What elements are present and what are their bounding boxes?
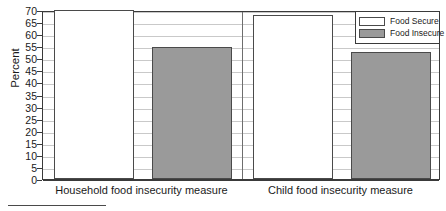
y-axis-tick-label: 70 (7, 6, 37, 17)
y-axis-tick-label: 5 (7, 163, 37, 174)
legend-item-food-insecure: Food Insecure (359, 28, 436, 39)
bar-food-secure (54, 10, 134, 179)
category-separator (242, 12, 243, 179)
legend-label-food-insecure: Food Insecure (390, 29, 444, 38)
y-axis-tick-label: 0 (7, 175, 37, 186)
y-axis-tick-label: 60 (7, 30, 37, 41)
y-axis-tick-label: 40 (7, 78, 37, 89)
y-axis-tick-label: 35 (7, 91, 37, 102)
footnote-rule (8, 205, 106, 206)
gridline (43, 180, 439, 181)
chart-figure: Percent 7065605550454035302520151050 Hou… (0, 0, 446, 211)
y-axis-tick (37, 180, 42, 181)
legend-label-food-secure: Food Secure (390, 17, 439, 26)
x-axis-tick-label: Child food insecurity measure (241, 184, 440, 196)
y-axis-tick-label: 50 (7, 54, 37, 65)
y-axis-tick-label: 10 (7, 151, 37, 162)
y-axis-tick-label: 25 (7, 115, 37, 126)
y-axis-tick-label: 55 (7, 42, 37, 53)
gray-swatch-icon (359, 29, 385, 38)
legend-item-food-secure: Food Secure (359, 16, 436, 27)
y-axis-tick-label: 30 (7, 103, 37, 114)
bar-food-secure (253, 15, 333, 179)
bar-food-insecure (152, 47, 232, 179)
x-axis-tick-label: Household food insecurity measure (42, 184, 241, 196)
y-axis-tick-label: 65 (7, 18, 37, 29)
y-axis-tick-label: 15 (7, 139, 37, 150)
chart-legend: Food Secure Food Insecure (355, 11, 440, 44)
bar-food-insecure (351, 52, 431, 179)
y-axis-tick-label: 20 (7, 127, 37, 138)
y-axis-tick-label: 45 (7, 66, 37, 77)
white-swatch-icon (359, 17, 385, 26)
